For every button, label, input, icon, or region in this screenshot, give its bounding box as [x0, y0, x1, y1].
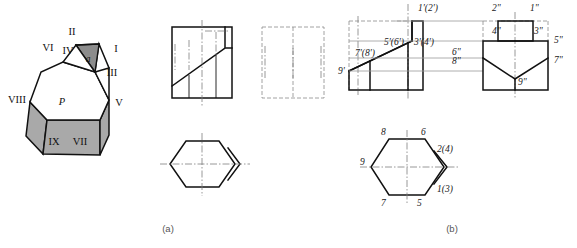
iso-label-III: III — [107, 67, 118, 78]
caption-b: (b) — [446, 223, 458, 234]
iso-label-IX: IX — [48, 136, 59, 147]
label-5: 5 — [417, 198, 422, 208]
iso-label-II: II — [69, 26, 76, 37]
iso-label-V: V — [115, 97, 123, 108]
panel-a-isometric: P a II IV VI I III V VIII IX VII — [8, 26, 123, 155]
label-3dp: 3" — [533, 26, 544, 36]
label-6: 6 — [421, 127, 426, 137]
label-9dp: 9" — [518, 77, 528, 87]
label-5p6p: 5'(6') — [384, 37, 404, 48]
label-9p: 9' — [338, 66, 346, 76]
label-1-3: 1(3) — [437, 184, 453, 195]
label-5dp: 5" — [554, 35, 564, 45]
panel-b-front-view: 1'(2') 5'(6') 3'(4') 7'(8') 9' 6" 8" — [338, 3, 483, 100]
label-1dp: 1" — [530, 3, 540, 13]
iso-label-I: I — [114, 43, 118, 54]
label-8: 8 — [381, 127, 386, 137]
label-9: 9 — [360, 157, 365, 167]
iso-face-label-P: P — [58, 96, 66, 107]
panel-b-top-view: 8 6 2(4) 9 1(3) 7 5 — [360, 127, 458, 208]
label-7p8p: 7'(8') — [355, 48, 375, 59]
panel-a-top-view — [160, 133, 250, 196]
label-2dp: 2" — [492, 3, 502, 13]
side-b-upper-block — [498, 21, 533, 41]
label-7: 7 — [381, 198, 387, 208]
panel-b-side-view: 2" 1" 4" 3" 5" 7" 9" — [483, 3, 564, 98]
iso-label-VIII: VIII — [8, 94, 27, 105]
technical-drawing-canvas: P a II IV VI I III V VIII IX VII — [0, 0, 577, 248]
caption-a: (a) — [162, 223, 174, 234]
label-8dp: 8" — [452, 56, 462, 66]
iso-label-VI: VI — [42, 42, 54, 53]
iso-label-VII: VII — [73, 136, 88, 147]
side-b-vee — [483, 58, 548, 79]
label-4dp: 4" — [492, 26, 502, 36]
label-7dp: 7" — [554, 55, 564, 65]
panel-a-front-view — [172, 20, 232, 106]
figure-root: P a II IV VI I III V VIII IX VII — [0, 0, 577, 248]
label-2-4: 2(4) — [437, 144, 453, 155]
label-3p4p: 3'(4') — [413, 37, 434, 48]
iso-label-IV: IV — [62, 45, 73, 56]
label-1p2p: 1'(2') — [418, 3, 438, 14]
iso-face-label-Q: a — [86, 54, 91, 64]
front-a-incline — [172, 27, 225, 86]
panel-a-side-view — [262, 27, 324, 98]
